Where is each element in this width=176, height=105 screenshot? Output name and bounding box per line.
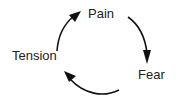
arrow-fear-to-tension: [64, 71, 119, 94]
node-tension: Tension: [12, 49, 57, 62]
node-pain: Pain: [88, 7, 114, 20]
arrow-tension-to-pain: [57, 11, 81, 51]
cycle-diagram: Pain Fear Tension: [0, 0, 176, 105]
node-fear: Fear: [138, 68, 165, 81]
arrow-pain-to-fear: [128, 17, 151, 64]
